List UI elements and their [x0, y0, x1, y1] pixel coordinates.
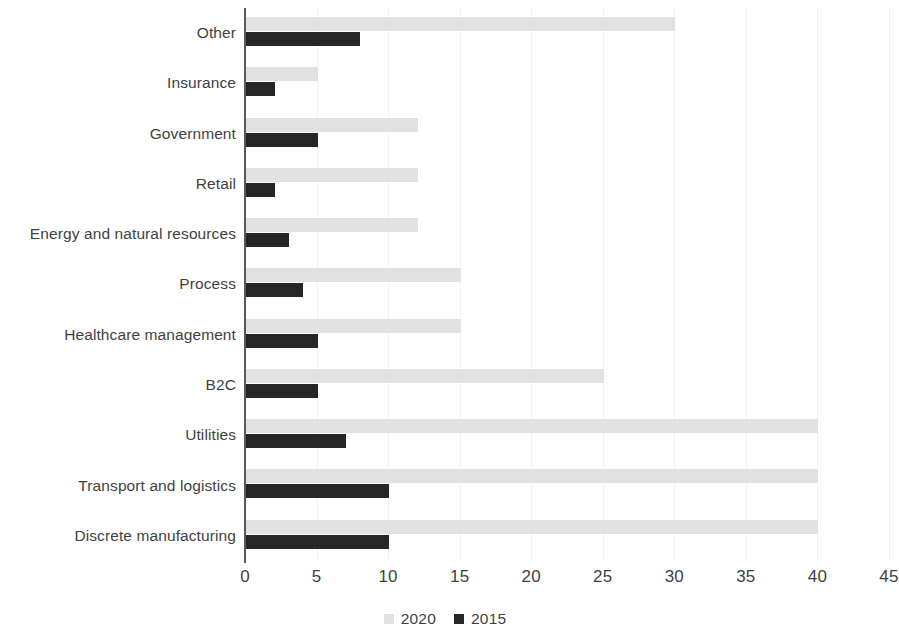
- category-bar-group: [246, 259, 890, 309]
- x-tick-label: 30: [665, 567, 684, 587]
- bar-2015: [246, 384, 318, 398]
- chart-category-row: Energy and natural resources: [0, 209, 890, 259]
- bar-2020: [246, 67, 318, 81]
- category-axis-label: Energy and natural resources: [30, 225, 236, 243]
- category-axis-label: Other: [197, 24, 236, 42]
- legend-label: 2015: [471, 610, 506, 628]
- category-bar-group: [246, 310, 890, 360]
- x-tick-label: 10: [378, 567, 397, 587]
- bar-2020: [246, 268, 461, 282]
- bar-2015: [246, 32, 360, 46]
- bar-2020: [246, 17, 675, 31]
- chart-legend: 20202015: [0, 610, 890, 628]
- legend-item[interactable]: 2020: [384, 610, 436, 628]
- x-tick-label: 0: [240, 567, 250, 587]
- legend-label: 2020: [401, 610, 436, 628]
- bar-2020: [246, 319, 461, 333]
- bar-2015: [246, 82, 275, 96]
- bar-2020: [246, 419, 818, 433]
- category-axis-label: Transport and logistics: [78, 477, 236, 495]
- bar-2015: [246, 133, 318, 147]
- chart-category-row: Healthcare management: [0, 310, 890, 360]
- bar-2020: [246, 118, 418, 132]
- category-axis-label: Government: [150, 125, 236, 143]
- category-bar-group: [246, 209, 890, 259]
- category-bar-group: [246, 360, 890, 410]
- category-bar-group: [246, 511, 890, 561]
- chart-category-row: Government: [0, 109, 890, 159]
- category-axis-label: Healthcare management: [64, 326, 236, 344]
- chart-category-row: Retail: [0, 159, 890, 209]
- chart-category-row: Utilities: [0, 410, 890, 460]
- x-tick-label: 25: [593, 567, 612, 587]
- category-bar-group: [246, 109, 890, 159]
- bar-2020: [246, 469, 818, 483]
- category-axis-label: Insurance: [167, 74, 236, 92]
- chart-category-row: Discrete manufacturing: [0, 511, 890, 561]
- chart-category-row: Transport and logistics: [0, 460, 890, 510]
- bar-2015: [246, 484, 389, 498]
- category-axis-label: Process: [179, 276, 236, 294]
- category-bar-group: [246, 8, 890, 58]
- x-tick-label: 35: [736, 567, 755, 587]
- bar-2015: [246, 434, 346, 448]
- category-axis-label: Utilities: [185, 426, 236, 444]
- bar-2015: [246, 535, 389, 549]
- category-bar-group: [246, 410, 890, 460]
- x-tick-label: 40: [808, 567, 827, 587]
- chart-category-row: Process: [0, 259, 890, 309]
- bar-2020: [246, 218, 418, 232]
- bar-2020: [246, 520, 818, 534]
- bar-2015: [246, 233, 289, 247]
- x-tick-label: 20: [522, 567, 541, 587]
- x-axis-tick-labels: 051015202530354045: [0, 563, 890, 593]
- bar-2020: [246, 168, 418, 182]
- chart-plot-rows: OtherInsuranceGovernmentRetailEnergy and…: [0, 8, 890, 561]
- legend-swatch-icon: [454, 614, 464, 624]
- category-axis-label: B2C: [206, 376, 236, 394]
- x-tick-label: 45: [879, 567, 898, 587]
- bar-2015: [246, 183, 275, 197]
- x-tick-label: 15: [450, 567, 469, 587]
- x-tick-label: 5: [312, 567, 322, 587]
- category-bar-group: [246, 58, 890, 108]
- legend-item[interactable]: 2015: [454, 610, 506, 628]
- legend-swatch-icon: [384, 614, 394, 624]
- category-axis-label: Retail: [196, 175, 236, 193]
- category-bar-group: [246, 159, 890, 209]
- bar-2020: [246, 369, 604, 383]
- chart-category-row: B2C: [0, 360, 890, 410]
- bar-2015: [246, 334, 318, 348]
- bar-2015: [246, 283, 303, 297]
- category-bar-group: [246, 460, 890, 510]
- chart-category-row: Insurance: [0, 58, 890, 108]
- category-axis-label: Discrete manufacturing: [74, 527, 236, 545]
- chart-category-row: Other: [0, 8, 890, 58]
